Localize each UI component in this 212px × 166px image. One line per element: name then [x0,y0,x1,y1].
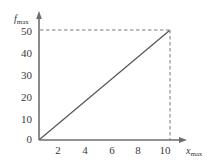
y-tick-label-50: 50 [12,26,32,37]
x-tick-label-8: 8 [130,145,146,156]
y-axis-title: fmax [14,14,29,25]
y-tick-label-20: 20 [12,92,32,103]
chart-figure: 50 40 30 20 10 0 2 4 6 8 10 fmax xmax [0,0,212,166]
x-axis-title-sub: max [190,150,202,158]
x-axis-title: xmax [186,146,202,157]
y-tick-label-0: 0 [12,134,32,145]
data-series-line [40,31,170,140]
y-tick-label-40: 40 [12,48,32,59]
x-tick-label-6: 6 [104,145,120,156]
y-axis-title-sub: max [17,18,29,26]
x-tick-label-4: 4 [77,145,93,156]
x-tick-label-10: 10 [157,145,173,156]
y-tick-label-10: 10 [12,114,32,125]
x-axis [39,137,187,143]
x-tick-label-2: 2 [50,145,66,156]
y-tick-label-30: 30 [12,70,32,81]
